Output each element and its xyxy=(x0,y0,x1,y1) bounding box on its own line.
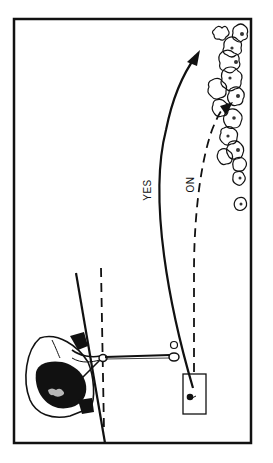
golfer-hands xyxy=(99,355,107,362)
target-alignment-dashed-line xyxy=(101,268,104,430)
tree-shading xyxy=(226,32,244,206)
club-head-icon xyxy=(169,353,179,361)
no-label: NO xyxy=(184,177,195,193)
yes-arrowhead-icon xyxy=(187,50,200,66)
tee-ball-icon xyxy=(171,342,178,349)
club-shaft xyxy=(105,355,170,357)
golf-diagram: YES NO xyxy=(0,0,273,463)
golf-ball-icon xyxy=(187,394,194,401)
trees-icon xyxy=(208,24,248,211)
yes-label: YES xyxy=(142,179,153,201)
ball-area-box xyxy=(183,374,206,414)
golfer-figure xyxy=(26,332,107,417)
club-shaft-highlight xyxy=(105,358,170,359)
no-flight-path xyxy=(194,104,228,372)
golf-club xyxy=(105,342,179,362)
yes-flight-path xyxy=(159,56,196,388)
